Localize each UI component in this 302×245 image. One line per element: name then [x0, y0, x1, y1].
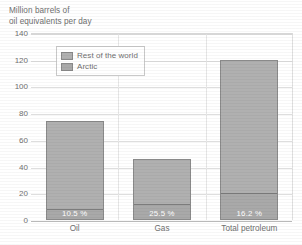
y-tick-label-140: 140: [2, 29, 28, 38]
chart-axis-title: Million barrels of oil equivalents per d…: [9, 6, 92, 27]
bar-segment-arctic[interactable]: 16.2 %: [221, 193, 277, 219]
chart-legend: Rest of the worldArctic: [56, 46, 145, 76]
bar-stack[interactable]: 25.5 %: [133, 159, 191, 220]
y-tick-label-40: 40: [2, 162, 28, 171]
bar-data-label: 25.5 %: [134, 209, 190, 218]
bar-segment-rest-of-the-world[interactable]: [134, 160, 190, 205]
gridline-0: [31, 221, 292, 222]
x-label-gas: Gas: [118, 224, 205, 233]
y-tick-label-120: 120: [2, 55, 28, 64]
legend-item-arctic[interactable]: Arctic: [61, 61, 138, 72]
bar-data-label: 16.2 %: [221, 209, 277, 218]
y-tick-label-100: 100: [2, 82, 28, 91]
category-separator-2: [206, 34, 207, 220]
axis-title-line-1: Million barrels of: [9, 6, 92, 17]
legend-item-rest-of-the-world[interactable]: Rest of the world: [61, 50, 138, 61]
bar-segment-rest-of-the-world[interactable]: [47, 122, 103, 210]
axis-title-line-2: oil equivalents per day: [9, 17, 92, 28]
bar-stack[interactable]: 16.2 %: [220, 60, 278, 220]
chart-container: Million barrels of oil equivalents per d…: [0, 0, 302, 245]
legend-swatch-icon: [61, 63, 73, 71]
legend-item-label: Arctic: [77, 62, 97, 71]
x-axis-category-labels: OilGasTotal petroleum: [31, 224, 293, 238]
legend-item-label: Rest of the world: [77, 51, 138, 60]
bar-data-label: 10.5 %: [47, 209, 103, 218]
bar-segment-arctic[interactable]: 25.5 %: [134, 204, 190, 219]
y-tick-label-60: 60: [2, 135, 28, 144]
y-tick-label-0: 0: [2, 216, 28, 225]
y-tick-label-20: 20: [2, 189, 28, 198]
y-axis-tick-labels: 020406080100120140: [0, 33, 28, 220]
x-label-total-petroleum: Total petroleum: [206, 224, 293, 233]
legend-swatch-icon: [61, 52, 73, 60]
x-label-oil: Oil: [31, 224, 118, 233]
bar-stack[interactable]: 10.5 %: [46, 121, 104, 220]
y-tick-label-80: 80: [2, 109, 28, 118]
bar-segment-rest-of-the-world[interactable]: [221, 61, 277, 195]
bar-segment-arctic[interactable]: 10.5 %: [47, 209, 103, 219]
bar-group-total-petroleum[interactable]: 16.2 %: [220, 33, 278, 220]
